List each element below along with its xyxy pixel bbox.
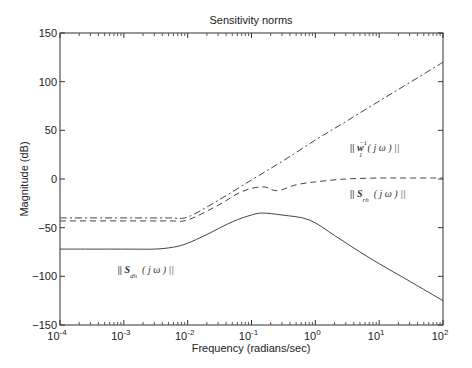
y-tick-label: 150 [39,27,57,39]
x-tick-label: 101 [368,328,385,342]
y-axis-label: Magnitude (dB) [18,141,30,216]
annotation-0: || w−11( j ω ) || [350,139,400,159]
y-tick-label: −100 [32,270,57,282]
plot-frame [60,33,443,325]
y-tick-label: −50 [38,222,57,234]
x-tick-label: 102 [432,328,449,342]
annotation-2: || Sdh( j ω ) || [118,264,174,280]
x-tick-label: 10-1 [239,328,259,342]
plot-area [60,33,443,325]
annotations: || w−11( j ω ) |||| Srh( j ω ) |||| Sdh(… [118,139,406,281]
series-line-2 [60,213,443,301]
x-tick-label: 10-3 [111,328,131,342]
x-axis-label: Frequency (radians/sec) [192,342,311,354]
y-tick-label: 50 [45,124,57,136]
x-tick-label: 10-2 [175,328,195,342]
annotation-1: || Srh( j ω ) || [350,188,406,204]
x-tick-label: 100 [304,328,321,342]
y-tick-label: 0 [51,173,57,185]
y-tick-label: −150 [32,319,57,331]
chart-title: Sensitivity norms [209,14,293,26]
y-axis: 150100500−50−100−150 [32,27,443,331]
sensitivity-chart: Sensitivity norms 10-410-310-210-1100101… [0,0,472,368]
y-tick-label: 100 [39,76,57,88]
